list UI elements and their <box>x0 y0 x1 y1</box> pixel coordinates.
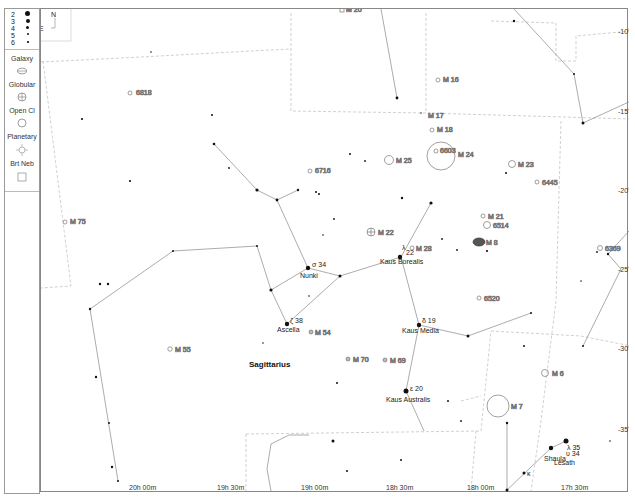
star-chart[interactable]: N E <box>40 8 628 492</box>
dso-label: M 69 <box>390 357 406 364</box>
dso-label: M 28 <box>416 245 432 252</box>
star-chart-canvas[interactable]: N E <box>41 9 629 493</box>
svg-text:17h 30m: 17h 30m <box>561 484 588 491</box>
dso-label: M 22 <box>378 229 394 236</box>
svg-text:σ 34: σ 34 <box>312 261 326 268</box>
dso-label: 6603 <box>440 147 456 154</box>
mag-label: 3 <box>11 18 15 25</box>
svg-text:ε 20: ε 20 <box>410 385 423 392</box>
svg-text:19h 00m: 19h 00m <box>301 484 328 491</box>
dso-label: M 17 <box>428 112 444 119</box>
planetary-nebula-icon <box>598 246 603 251</box>
mag-dot-icon <box>26 19 30 23</box>
constellation-name: Sagittarius <box>249 360 291 369</box>
open-cluster-icon <box>481 214 485 218</box>
svg-text:-15°: -15° <box>618 108 629 115</box>
dso-label: 6514 <box>493 222 509 229</box>
bright-nebula-icon <box>473 238 485 246</box>
dso-label: M 24 <box>458 151 474 158</box>
svg-text:Ascella: Ascella <box>277 326 300 333</box>
dso-label: M 70 <box>353 356 369 363</box>
svg-text:Lesath: Lesath <box>554 459 575 466</box>
dso-label: 6445 <box>542 179 558 186</box>
open-cluster-icon <box>385 156 394 165</box>
globular-cluster-icon <box>346 357 350 361</box>
svg-text:-25°: -25° <box>618 266 629 273</box>
planetary-nebula-icon <box>15 144 29 156</box>
svg-text:υ 34: υ 34 <box>566 450 580 457</box>
dso-label: M 7 <box>511 403 523 410</box>
dso-label: M 75 <box>70 218 86 225</box>
svg-text:δ 19: δ 19 <box>422 317 436 324</box>
open-cluster-icon <box>509 161 516 168</box>
stars <box>81 20 611 492</box>
mag-dot-icon <box>27 41 29 43</box>
svg-text:-20°: -20° <box>618 187 629 194</box>
legend-planetary-label: Planetary <box>5 133 39 140</box>
legend-bright-nebula-label: Brt Neb <box>5 160 39 167</box>
legend-panel: 2 3 4 5 6 Galaxy Globular Open Cl Planet… <box>4 8 40 494</box>
bright-nebula-icon <box>17 172 27 182</box>
svg-text:18h 30m: 18h 30m <box>386 484 413 491</box>
svg-text:20h 00m: 20h 00m <box>129 484 156 491</box>
svg-text:-10°: -10° <box>618 28 629 35</box>
svg-text:19h 30m: 19h 30m <box>217 484 244 491</box>
svg-text:-35°: -35° <box>618 426 629 433</box>
dso-label: M 21 <box>488 213 504 220</box>
dso-label: M 54 <box>315 329 331 336</box>
compass: N E <box>41 9 71 41</box>
bright-nebula-icon <box>340 9 344 12</box>
svg-text:ζ 38: ζ 38 <box>290 317 303 325</box>
compass-east-label: E <box>41 25 44 32</box>
svg-text:Kaus Australis: Kaus Australis <box>386 396 431 403</box>
legend-galaxy-label: Galaxy <box>5 55 39 62</box>
mag-label: 5 <box>11 32 15 39</box>
open-cluster-icon <box>436 78 440 82</box>
constellation-boundaries <box>41 13 629 491</box>
globular-cluster-icon <box>309 330 313 334</box>
dso-label: M 8 <box>486 239 498 246</box>
globular-cluster-icon <box>383 358 387 362</box>
dso-label: M 18 <box>437 126 453 133</box>
svg-text:Kaus Borealis: Kaus Borealis <box>380 258 424 265</box>
open-cluster-icon <box>430 128 434 132</box>
dso-label: M 6 <box>552 370 564 377</box>
legend-open-cluster-label: Open Cl <box>5 107 39 114</box>
mag-label: 4 <box>11 25 15 32</box>
dso-label: M 23 <box>518 161 534 168</box>
compass-north-label: N <box>51 11 56 18</box>
dso-label: 6716 <box>315 167 331 174</box>
svg-text:22: 22 <box>406 249 414 256</box>
open-cluster-icon <box>17 118 27 128</box>
globular-cluster-icon <box>168 347 172 351</box>
open-cluster-icon <box>487 395 509 417</box>
magnitude-scale: 2 3 4 5 6 <box>5 9 39 50</box>
dso-label: 6369 <box>605 245 621 252</box>
deep-sky-objects[interactable]: M 20 M 16 M 17 M 18 6603 M 24 M 25 M 23 … <box>63 9 621 417</box>
constellation-lines <box>90 9 629 491</box>
svg-text:Kaus Media: Kaus Media <box>402 327 439 334</box>
globular-cluster-icon <box>63 220 67 224</box>
mag-dot-icon <box>26 26 29 29</box>
svg-text:κ: κ <box>527 470 531 477</box>
open-cluster-icon <box>434 149 438 153</box>
axis-labels: 20h 00m 19h 30m 19h 00m 18h 30m 18h 00m … <box>129 28 629 491</box>
open-cluster-icon <box>484 222 491 229</box>
mag-dot-icon <box>25 11 30 16</box>
planetary-nebula-icon <box>128 91 132 95</box>
open-cluster-icon <box>542 370 549 377</box>
open-cluster-icon <box>308 169 312 173</box>
legend-divider <box>5 191 39 192</box>
globular-cluster-icon <box>17 92 27 102</box>
dso-label: 6520 <box>484 295 500 302</box>
svg-text:-30°: -30° <box>618 345 629 352</box>
dso-label: M 25 <box>396 157 412 164</box>
mag-dot-icon <box>27 33 29 35</box>
dso-label: M 16 <box>443 76 459 83</box>
dso-label: M 55 <box>175 346 191 353</box>
dso-label: M 20 <box>346 9 362 13</box>
svg-text:18h 00m: 18h 00m <box>467 484 494 491</box>
dso-label: 6818 <box>136 89 152 96</box>
galaxy-ellipse-icon <box>17 67 27 75</box>
planetary-nebula-icon <box>535 180 539 184</box>
